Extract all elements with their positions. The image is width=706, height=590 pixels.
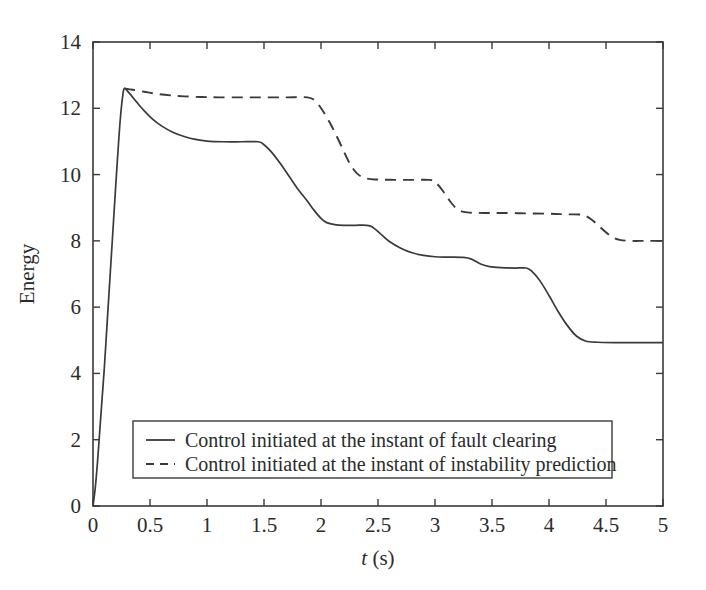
chart-figure: 00.511.522.533.544.55 02468101214 t (s)E… <box>0 0 706 590</box>
y-tick-label-2: 4 <box>71 361 82 385</box>
x-axis-tick-labels: 00.511.522.533.544.55 <box>88 513 669 537</box>
x-tick-label-2: 1 <box>202 513 213 537</box>
energy-line-chart: 00.511.522.533.544.55 02468101214 t (s)E… <box>0 0 706 590</box>
y-axis-title: Energy <box>15 243 39 304</box>
y-tick-label-7: 14 <box>60 30 82 54</box>
x-tick-label-0: 0 <box>88 513 99 537</box>
y-tick-label-4: 8 <box>71 229 82 253</box>
x-tick-label-5: 2.5 <box>365 513 391 537</box>
x-tick-label-9: 4.5 <box>593 513 619 537</box>
y-axis-tick-labels: 02468101214 <box>60 30 82 518</box>
x-axis-title: t (s) <box>361 546 394 570</box>
x-tick-label-1: 0.5 <box>137 513 163 537</box>
x-tick-label-7: 3.5 <box>479 513 505 537</box>
x-tick-label-10: 5 <box>658 513 669 537</box>
x-tick-label-8: 4 <box>544 513 555 537</box>
y-tick-label-1: 2 <box>71 428 82 452</box>
chart-legend: Control initiated at the instant of faul… <box>133 421 617 478</box>
x-tick-label-3: 1.5 <box>251 513 277 537</box>
x-tick-label-6: 3 <box>430 513 441 537</box>
y-tick-label-6: 12 <box>60 96 81 120</box>
legend-label-0: Control initiated at the instant of faul… <box>185 429 557 452</box>
series-line-dashed <box>124 88 663 241</box>
y-tick-label-0: 0 <box>71 494 82 518</box>
y-tick-label-5: 10 <box>60 163 81 187</box>
x-tick-label-4: 2 <box>316 513 327 537</box>
y-tick-label-3: 6 <box>71 295 82 319</box>
legend-label-1: Control initiated at the instant of inst… <box>185 453 617 476</box>
